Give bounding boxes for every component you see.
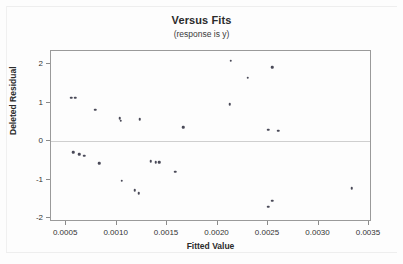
y-tick-label: -1 (36, 174, 43, 183)
data-point (267, 205, 270, 208)
x-tick-label: 0.0030 (305, 228, 329, 237)
chart-subtitle: (response is y) (0, 29, 403, 39)
x-tick-mark (318, 221, 319, 225)
data-point (277, 130, 280, 133)
x-tick-label: 0.0025 (255, 228, 279, 237)
y-tick-label: 1 (39, 97, 43, 106)
data-point (158, 161, 161, 164)
plot-frame (50, 50, 371, 221)
data-point (228, 103, 231, 106)
x-tick-label: 0.0035 (356, 228, 380, 237)
data-point (182, 126, 185, 129)
chart-title: Versus Fits (0, 14, 403, 26)
data-point (150, 160, 153, 163)
data-point (229, 59, 232, 62)
plot-area (51, 51, 370, 220)
data-point (98, 162, 101, 165)
paper-edge-bottom (6, 252, 397, 253)
y-tick-label: 2 (39, 59, 43, 68)
chart-figure: Versus Fits (response is y) Deleted Resi… (0, 0, 403, 264)
x-tick-mark (166, 221, 167, 225)
data-point (94, 109, 97, 112)
data-point (72, 151, 75, 154)
x-tick-label: 0.0005 (53, 228, 77, 237)
x-tick-mark (267, 221, 268, 225)
y-axis-label: Deleted Residual (8, 67, 18, 136)
data-point (139, 118, 142, 121)
x-tick-label: 0.0010 (103, 228, 127, 237)
x-axis-label: Fitted Value (50, 241, 371, 251)
data-point (83, 154, 86, 157)
data-point (267, 129, 270, 132)
x-tick-mark (65, 221, 66, 225)
paper-edge-left (6, 6, 7, 253)
x-tick-mark (217, 221, 218, 225)
x-tick-mark (368, 221, 369, 225)
data-point (351, 187, 354, 190)
data-point (271, 200, 274, 203)
data-point (247, 77, 250, 80)
y-tick-label: -2 (36, 213, 43, 222)
data-point (78, 153, 81, 156)
x-tick-label: 0.0020 (204, 228, 228, 237)
data-point (74, 97, 77, 100)
x-tick-mark (116, 221, 117, 225)
data-point (138, 192, 141, 195)
data-point (174, 170, 177, 173)
x-tick-label: 0.0015 (154, 228, 178, 237)
data-point (120, 180, 123, 183)
data-point (70, 97, 73, 100)
data-point (271, 66, 274, 69)
y-tick-label: 0 (39, 136, 43, 145)
data-point (119, 119, 122, 122)
zero-reference-line (51, 141, 370, 142)
data-point (134, 189, 137, 192)
paper-edge-top (6, 6, 397, 7)
